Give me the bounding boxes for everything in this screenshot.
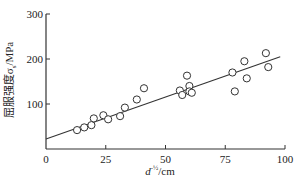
x-tick-label: 50 <box>160 153 172 165</box>
data-point <box>265 64 272 71</box>
data-point <box>188 89 195 96</box>
scatter-chart: 100200300 0255075100 d-½/cm 屈服强度σs/MPa <box>0 0 300 187</box>
data-point <box>105 116 112 123</box>
x-tick-label: 0 <box>43 153 49 165</box>
data-point <box>73 127 80 134</box>
data-points <box>73 50 271 134</box>
data-point <box>133 96 140 103</box>
x-axis-label: d-½/cm <box>145 164 175 177</box>
y-tick-label: 200 <box>27 53 44 65</box>
data-point <box>183 72 190 79</box>
y-tick-label: 300 <box>27 8 44 20</box>
data-point <box>116 113 123 120</box>
y-tick-label: 100 <box>27 98 44 110</box>
data-point <box>243 75 250 82</box>
data-point <box>88 122 95 129</box>
data-point <box>90 115 97 122</box>
data-point <box>241 58 248 65</box>
data-point <box>81 124 88 131</box>
x-tick-label: 75 <box>220 153 232 165</box>
x-tick-label: 100 <box>277 153 294 165</box>
y-axis-label: 屈服强度σs/MPa <box>2 42 18 119</box>
data-point <box>121 104 128 111</box>
data-point <box>140 85 147 92</box>
data-point <box>229 69 236 76</box>
data-point <box>179 91 186 98</box>
data-point <box>262 50 269 57</box>
x-tick-label: 25 <box>100 153 112 165</box>
data-point <box>231 88 238 95</box>
x-ticks: 0255075100 <box>43 145 294 165</box>
